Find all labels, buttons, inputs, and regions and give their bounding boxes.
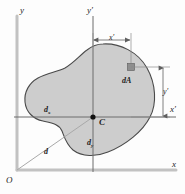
dimension-label-dy: dy <box>87 139 93 147</box>
axis-label-x-prime: x′ <box>170 105 176 114</box>
dimension-dy-subscript: y <box>91 143 93 148</box>
origin-label: O <box>6 176 13 185</box>
area-element-label: dA <box>122 77 131 85</box>
dimension-label-d: d <box>44 148 48 156</box>
centroid-point <box>90 114 95 119</box>
axis-label-x: x <box>172 160 176 169</box>
dimension-label-dx: dx <box>44 106 51 114</box>
figure-canvas: y y′ x x′ O C dA x′ y′ dx dy d <box>0 0 185 194</box>
diagram-svg <box>0 0 185 194</box>
dimension-label-x-prime: x′ <box>109 34 114 42</box>
dimension-dx-subscript: x <box>48 110 51 115</box>
dimension-d-base: d <box>44 147 48 156</box>
dimension-label-y-prime: y′ <box>163 88 168 96</box>
axis-label-y-prime: y′ <box>87 6 93 15</box>
axis-label-y: y <box>20 6 24 15</box>
centroid-label: C <box>99 118 105 127</box>
